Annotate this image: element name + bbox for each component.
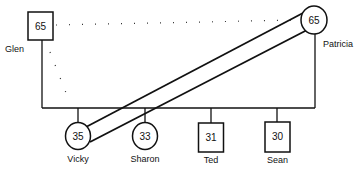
glen-label: Glen [5, 44, 24, 54]
person-patricia: 65 Patricia [301, 6, 353, 49]
glen-patricia-dotted-line [56, 20, 298, 25]
vicky-label: Vicky [67, 154, 89, 164]
ted-age: 31 [205, 132, 217, 143]
person-sean: 30 Sean [265, 122, 290, 165]
glen-vicky-dotted-line [50, 52, 70, 103]
ted-label: Ted [204, 155, 219, 165]
vicky-age: 35 [72, 131, 84, 142]
glen-age: 65 [35, 21, 47, 32]
sean-age: 30 [272, 131, 284, 142]
person-ted: 31 Ted [199, 123, 224, 165]
person-glen: 65 Glen [5, 12, 53, 54]
person-vicky: 35 Vicky [66, 123, 91, 165]
vicky-patricia-line-a [86, 13, 303, 127]
sharon-label: Sharon [130, 154, 159, 164]
patricia-age: 65 [308, 15, 320, 26]
sean-label: Sean [267, 155, 288, 165]
genogram: 65 Glen 65 Patricia 35 Vicky 33 Sharon 3… [0, 0, 360, 177]
patricia-label: Patricia [323, 39, 353, 49]
sharon-age: 33 [139, 131, 151, 142]
person-sharon: 33 Sharon [130, 123, 159, 165]
